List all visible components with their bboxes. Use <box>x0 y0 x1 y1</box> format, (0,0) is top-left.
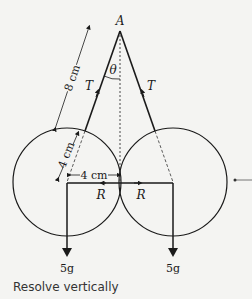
weight-arrow-right <box>168 248 178 257</box>
right-radius-dashed <box>155 131 173 182</box>
reaction-label-right: R <box>135 188 145 202</box>
string-length-label: 8 cm <box>62 63 83 93</box>
tension-label-left: T <box>85 79 94 93</box>
center-distance-label: 4 cm <box>80 169 108 182</box>
weight-label-right: 5g <box>166 262 180 275</box>
angle-label: θ <box>109 63 117 77</box>
reaction-label-left: R <box>95 188 105 202</box>
two-spheres-diagram: 8 cm 4 cm 4 cm A θ T T R R 5g 5g <box>0 0 252 299</box>
weight-arrow-left <box>62 248 72 257</box>
caption: Resolve vertically <box>13 280 119 294</box>
tension-label-right: T <box>147 79 156 93</box>
apex-label: A <box>115 14 125 28</box>
radius-label: 4 cm <box>55 140 77 171</box>
side-pointer-dot <box>234 179 237 182</box>
weight-label-left: 5g <box>60 262 74 275</box>
